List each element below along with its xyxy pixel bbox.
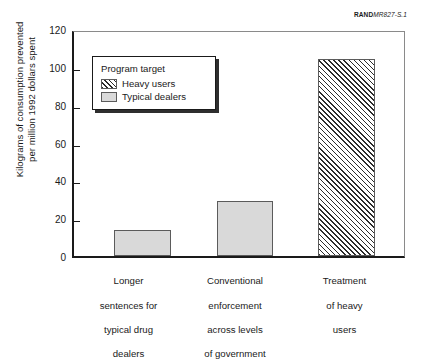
y-tick-mark-40	[74, 183, 80, 184]
bar-treatment-heavy-users[interactable]	[318, 59, 375, 256]
x-label-line: users	[333, 324, 356, 335]
y-tick-label-80: 80	[32, 102, 66, 112]
x-label-conventional-enforcement: Conventional enforcement across levels o…	[185, 263, 285, 361]
y-tick-label-40: 40	[32, 177, 66, 187]
legend-label-typical-dealers: Typical dealers	[122, 91, 186, 102]
y-tick-mark-60	[74, 146, 80, 147]
y-tick-mark-80	[74, 108, 80, 109]
y-tick-label-20: 20	[32, 215, 66, 225]
legend-item-heavy-users[interactable]: Heavy users	[101, 78, 207, 89]
x-label-line: Longer	[114, 275, 144, 286]
x-label-line: across levels	[207, 324, 262, 335]
x-label-line: of heavy	[326, 300, 362, 311]
x-label-line: sentences for	[100, 300, 158, 311]
y-tick-mark-20	[74, 221, 80, 222]
bar-longer-sentences[interactable]	[114, 230, 171, 257]
legend: Program target Heavy users Typical deale…	[92, 56, 216, 110]
legend-label-heavy-users: Heavy users	[122, 78, 175, 89]
y-tick-label-60: 60	[32, 140, 66, 150]
x-label-longer-sentences: Longer sentences for typical drug dealer…	[81, 263, 176, 361]
legend-item-typical-dealers[interactable]: Typical dealers	[101, 91, 207, 102]
legend-swatch-solid-icon	[101, 92, 117, 102]
x-label-line: typical drug	[104, 324, 153, 335]
x-label-treatment-heavy-users: Treatment of heavy users	[297, 263, 392, 336]
bar-conventional-enforcement[interactable]	[217, 201, 273, 256]
y-tick-label-120: 120	[32, 26, 66, 36]
y-tick-label-0: 0	[32, 253, 66, 263]
x-label-line: enforcement	[208, 300, 261, 311]
x-label-line: of government	[204, 348, 265, 359]
legend-title: Program target	[101, 63, 207, 75]
y-tick-mark-100	[74, 70, 80, 71]
x-label-line: dealers	[113, 348, 144, 359]
y-tick-label-100: 100	[32, 64, 66, 74]
x-label-line: Conventional	[207, 275, 263, 286]
plot-area: Program target Heavy users Typical deale…	[72, 31, 405, 258]
x-label-line: Treatment	[323, 275, 366, 286]
y-axis-title-line-1: Kilograms of consumption prevented	[14, 22, 25, 178]
legend-swatch-hatch-icon	[101, 79, 117, 89]
